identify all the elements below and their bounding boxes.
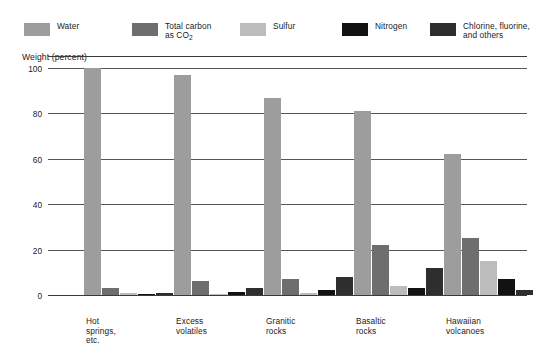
legend-label-chlorine-fluorine-others: Chlorine, fluorine, and others [463, 22, 530, 41]
x-category-label-0: Hot springs, etc. [86, 317, 116, 346]
legend-swatch-nitrogen [342, 23, 368, 36]
bars-3 [354, 68, 443, 295]
x-category-label-4: Hawaiian volcanoes [446, 317, 484, 336]
plot-area: 020406080100Hot springs, etc.Excess vola… [48, 68, 527, 295]
bar-4-0[interactable] [444, 154, 461, 295]
y-tick-label-0: 0 [37, 292, 42, 300]
legend-label-water: Water [57, 22, 79, 31]
bar-2-4[interactable] [336, 277, 353, 295]
y-tick-label-40: 40 [33, 201, 42, 209]
bar-0-2[interactable] [120, 293, 137, 295]
bar-1-1[interactable] [192, 281, 209, 295]
legend-item-total-carbon: Total carbonas CO2 [132, 22, 211, 41]
bar-2-2[interactable] [300, 293, 317, 295]
bar-0-0[interactable] [84, 68, 101, 295]
bar-4-2[interactable] [480, 261, 497, 295]
bar-3-2[interactable] [390, 286, 407, 295]
bar-0-4[interactable] [156, 293, 173, 295]
bar-2-3[interactable] [318, 290, 335, 295]
bar-1-3[interactable] [228, 292, 245, 295]
x-category-label-1: Excess volatiles [176, 317, 207, 336]
bars-1 [174, 68, 263, 295]
legend-item-nitrogen: Nitrogen [342, 22, 407, 36]
bar-4-3[interactable] [498, 279, 515, 295]
bar-0-1[interactable] [102, 288, 119, 295]
legend-item-chlorine-fluorine-others: Chlorine, fluorine, and others [430, 22, 530, 41]
bar-3-0[interactable] [354, 111, 371, 295]
bar-3-3[interactable] [408, 288, 425, 295]
x-category-label-3: Basaltic rocks [356, 317, 386, 336]
legend-swatch-total-carbon [132, 23, 158, 36]
bar-3-4[interactable] [426, 268, 443, 295]
bars-2 [264, 68, 353, 295]
chart-area: Weight (percent) 020406080100Hot springs… [0, 52, 550, 328]
legend-swatch-water [24, 23, 50, 36]
y-axis-title: Weight (percent) [22, 52, 87, 62]
bar-2-1[interactable] [282, 279, 299, 295]
legend-item-water: Water [24, 22, 79, 36]
y-tick-label-100: 100 [28, 65, 42, 73]
legend-swatch-sulfur [240, 23, 266, 36]
bars-0 [84, 68, 173, 295]
bar-3-1[interactable] [372, 245, 389, 295]
bars-4 [444, 68, 533, 295]
bar-1-0[interactable] [174, 75, 191, 295]
legend-item-sulfur: Sulfur [240, 22, 295, 36]
legend-swatch-chlorine-fluorine-others [430, 23, 456, 36]
legend-label-total-carbon: Total carbonas CO2 [165, 22, 211, 41]
bar-2-0[interactable] [264, 98, 281, 295]
bar-4-4[interactable] [516, 290, 533, 295]
bar-4-1[interactable] [462, 238, 479, 295]
legend-label-sulfur: Sulfur [273, 22, 295, 31]
top-rule [48, 56, 527, 57]
x-category-label-2: Granitic rocks [266, 317, 295, 336]
bar-1-2[interactable] [210, 294, 227, 295]
legend-label-nitrogen: Nitrogen [375, 22, 407, 31]
y-tick-label-80: 80 [33, 110, 42, 118]
bar-1-4[interactable] [246, 288, 263, 295]
y-tick-label-20: 20 [33, 247, 42, 255]
chart-legend: WaterTotal carbonas CO2SulfurNitrogenChl… [0, 0, 550, 52]
bar-0-3[interactable] [138, 294, 155, 295]
y-tick-label-60: 60 [33, 156, 42, 164]
gridline-0 [48, 295, 527, 296]
